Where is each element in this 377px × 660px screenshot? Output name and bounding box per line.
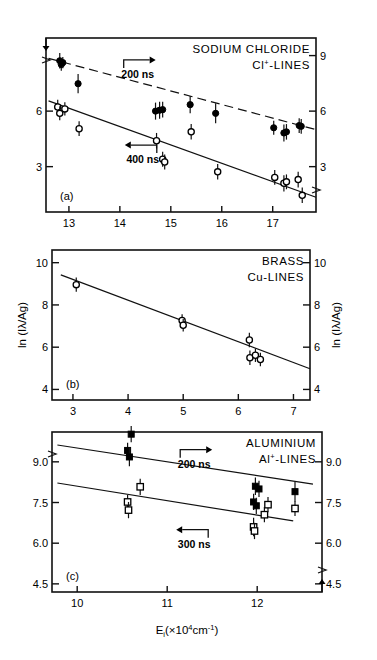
data-point xyxy=(126,454,132,460)
annotation-bracket xyxy=(124,60,150,68)
x-tick-label: 16 xyxy=(216,217,228,229)
x-tick-label: 7 xyxy=(290,405,296,417)
y-tick-label-left: 4 xyxy=(42,383,48,395)
data-point xyxy=(187,102,193,108)
data-point xyxy=(75,81,81,87)
data-point xyxy=(162,159,168,165)
data-point xyxy=(295,177,301,183)
annotation-200-ns: 200 ns xyxy=(178,446,212,470)
arrow-left-icon xyxy=(176,526,182,533)
x-tick-label: 12 xyxy=(251,597,263,609)
panel-a: 131415161763963(a)SODIUM CHLORIDECl+-LIN… xyxy=(36,38,326,229)
data-point xyxy=(153,138,159,144)
y-tick-label-left: 4.5 xyxy=(33,578,48,590)
annotation-label: 200 ns xyxy=(178,458,211,470)
x-tick-label: 10 xyxy=(71,597,83,609)
x-axis-label: Ei(×104cm-1) xyxy=(156,623,219,639)
data-point xyxy=(283,129,289,135)
panel-label: (b) xyxy=(66,378,79,390)
data-point xyxy=(124,499,130,505)
y-tick-label-right: 6 xyxy=(320,105,326,117)
data-point xyxy=(246,337,252,343)
y-tick-label-left: 9.0 xyxy=(33,456,48,468)
arrow-left-icon xyxy=(125,142,131,149)
y-tick-label-left: 3 xyxy=(36,161,42,173)
data-point xyxy=(188,129,194,135)
y-tick-label-right: 6.0 xyxy=(326,537,341,549)
data-point xyxy=(298,123,304,129)
y-tick-label-right: 6 xyxy=(314,341,320,353)
data-point xyxy=(257,356,263,362)
y-tick-label-right: 10 xyxy=(314,257,326,269)
data-point xyxy=(180,322,186,328)
annotation-label: 400 ns xyxy=(126,153,159,165)
x-tick-label: 4 xyxy=(125,405,131,417)
x-tick-label: 15 xyxy=(165,217,177,229)
panel-label: (c) xyxy=(66,570,79,582)
panel-subtitle: Al+-LINES xyxy=(259,452,316,465)
y-tick-label-right: 7.5 xyxy=(326,497,341,509)
annotation-200-ns: 200 ns xyxy=(121,56,155,80)
annotation-bracket xyxy=(182,530,208,538)
x-tick-label: 5 xyxy=(180,405,186,417)
panel-title: SODIUM CHLORIDE xyxy=(192,43,310,55)
x-tick-label: 17 xyxy=(267,217,279,229)
annotation-label: 200 ns xyxy=(121,68,154,80)
x-tick-label: 11 xyxy=(161,597,172,609)
y-tick-label-right: 9.0 xyxy=(326,456,341,468)
data-point xyxy=(76,126,82,132)
panel-label: (a) xyxy=(60,190,73,202)
series-400-ns xyxy=(49,100,316,203)
y-tick-label-right: 8 xyxy=(314,299,320,311)
data-point xyxy=(271,125,277,131)
panel-subtitle: Cl+-LINES xyxy=(252,58,310,71)
arrow-right-icon xyxy=(150,56,156,63)
data-point xyxy=(261,512,267,518)
y-tick-label-right: 3 xyxy=(320,161,326,173)
fit-line xyxy=(49,101,316,197)
boltzmann-plot-figure: 131415161763963(a)SODIUM CHLORIDECl+-LIN… xyxy=(0,0,377,660)
data-point xyxy=(62,106,68,112)
panel-title: BRASS xyxy=(262,255,304,267)
y-tick-label-left: 10 xyxy=(36,257,48,269)
x-tick-label: 14 xyxy=(114,217,126,229)
y-tick-label-left: 6 xyxy=(42,341,48,353)
annotation-300-ns: 300 ns xyxy=(176,526,210,550)
data-point xyxy=(213,110,219,116)
y-tick-label-left: 6.0 xyxy=(33,537,48,549)
data-point xyxy=(128,431,134,437)
y-axis-label-left: ln (Iλ/Ag) xyxy=(16,302,28,348)
x-tick-label: 13 xyxy=(63,217,75,229)
arrow-right-icon xyxy=(206,446,212,453)
data-point xyxy=(215,169,221,175)
panel-subtitle: Cu-LINES xyxy=(247,271,304,283)
x-tick-label: 3 xyxy=(70,405,76,417)
y-tick-label-left: 8 xyxy=(42,299,48,311)
data-point xyxy=(292,505,298,511)
y-tick-label-left: 7.5 xyxy=(33,497,48,509)
y-tick-label-right: 4.5 xyxy=(326,578,341,590)
data-point xyxy=(272,174,278,180)
data-point xyxy=(160,107,166,113)
y-tick-label-left: 6 xyxy=(36,105,42,117)
data-point xyxy=(299,192,305,198)
data-point xyxy=(125,507,131,513)
panel-b: 345671086410864(b)BRASSCu-LINESln (Iλ/Ag… xyxy=(16,250,342,417)
y-tick-label-right: 9 xyxy=(320,50,326,62)
panel-c-bottom-right-arrow-icon xyxy=(319,579,326,592)
data-point xyxy=(253,503,259,509)
data-point xyxy=(256,486,262,492)
annotation-400-ns: 400 ns xyxy=(125,142,159,166)
data-point xyxy=(60,60,66,66)
data-point xyxy=(73,282,79,288)
data-point xyxy=(137,484,143,490)
data-point xyxy=(265,501,271,507)
y-axis-label-right: ln (Iλ/Ag) xyxy=(330,302,342,348)
annotation-bracket xyxy=(131,145,157,153)
figure-root: 131415161763963(a)SODIUM CHLORIDECl+-LIN… xyxy=(0,0,377,660)
annotation-label: 300 ns xyxy=(178,538,211,550)
panel-c: 1011129.07.56.04.59.07.56.04.5(c)ALUMINI… xyxy=(33,426,342,609)
panel-title: ALUMINIUM xyxy=(246,437,316,449)
data-point xyxy=(251,528,257,534)
panel-a-top-left-arrow-icon xyxy=(43,38,50,51)
